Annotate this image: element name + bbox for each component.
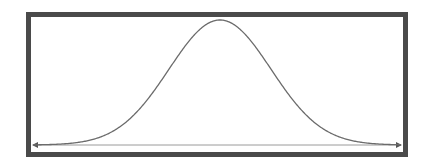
normal-distribution-curve bbox=[34, 20, 401, 145]
bell-curve-diagram bbox=[0, 0, 433, 167]
